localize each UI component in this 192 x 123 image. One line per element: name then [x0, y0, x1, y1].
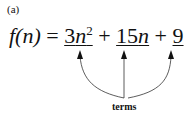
terms-label: terms [112, 101, 136, 112]
arrows-icon [0, 0, 192, 123]
diagram: (a) f(n) = 3n2 + 15n + 9 terms [0, 0, 192, 123]
